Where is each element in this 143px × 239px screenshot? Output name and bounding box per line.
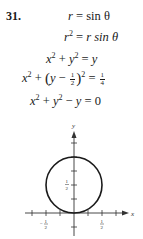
x-axis-label: x: [130, 210, 135, 218]
y-tick-num: 1: [66, 179, 69, 184]
x-tick-pos-num: 1: [101, 219, 104, 224]
x-tick-neg-sign: −: [40, 221, 43, 226]
y-tick-den: 2: [66, 186, 69, 191]
x-tick-neg-den: 2: [45, 225, 48, 230]
y-axis-label: y: [71, 122, 76, 130]
y-axis-arrow-icon: [72, 131, 77, 138]
circle-graph: x y − 1 2 1 2 1 2: [0, 0, 143, 239]
x-tick-pos-den: 2: [101, 225, 104, 230]
x-axis-arrow-icon: [122, 211, 129, 216]
x-tick-neg-num: 1: [45, 219, 48, 224]
